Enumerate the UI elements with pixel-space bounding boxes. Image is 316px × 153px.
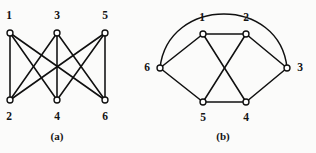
graph-vertex-5 xyxy=(102,30,108,36)
graph-vertex-1 xyxy=(200,31,206,37)
panel-caption: (b) xyxy=(216,130,230,143)
graph-edge-1-6 xyxy=(160,34,203,68)
vertex-label-2: 2 xyxy=(243,11,249,23)
vertex-label-3: 3 xyxy=(297,61,303,73)
graph-vertex-6 xyxy=(102,97,108,103)
panel-b: 123456(b) xyxy=(144,11,303,143)
vertex-label-5: 5 xyxy=(200,111,206,123)
graph-edge-6-3 xyxy=(160,14,287,68)
vertex-label-4: 4 xyxy=(54,110,60,122)
vertex-label-3: 3 xyxy=(54,9,60,21)
vertex-label-5: 5 xyxy=(102,9,108,21)
vertex-label-1: 1 xyxy=(6,9,12,21)
figure-container: 135246(a)123456(b) xyxy=(0,0,316,153)
panel-a: 135246(a) xyxy=(6,9,108,143)
graph-edge-5-6 xyxy=(160,68,203,102)
graph-vertex-5 xyxy=(200,99,206,105)
graph-vertex-4 xyxy=(54,97,60,103)
graph-vertex-1 xyxy=(7,30,13,36)
vertex-label-2: 2 xyxy=(6,110,12,122)
graph-vertex-2 xyxy=(7,97,13,103)
vertex-label-6: 6 xyxy=(144,61,150,73)
graph-vertex-3 xyxy=(54,30,60,36)
graph-edge-2-3 xyxy=(246,34,287,68)
vertex-label-4: 4 xyxy=(243,111,249,123)
graph-vertex-3 xyxy=(284,65,290,71)
vertex-label-6: 6 xyxy=(102,110,108,122)
graph-vertex-4 xyxy=(243,99,249,105)
vertex-label-1: 1 xyxy=(199,11,205,23)
graph-vertex-2 xyxy=(243,31,249,37)
graph-vertex-6 xyxy=(157,65,163,71)
graph-figure-svg: 135246(a)123456(b) xyxy=(0,0,316,153)
graph-edge-3-4 xyxy=(246,68,287,102)
panel-caption: (a) xyxy=(51,130,64,143)
